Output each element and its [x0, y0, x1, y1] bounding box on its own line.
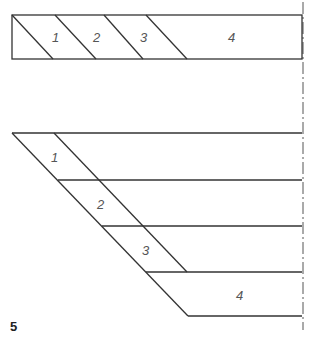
- figure-number: 5: [10, 319, 17, 334]
- bottom-outer-slant: [12, 133, 188, 316]
- bottom-diagram: 1 2 3 4: [12, 133, 302, 316]
- bottom-layer-label-3: 3: [142, 243, 150, 258]
- bottom-layer-label-2: 2: [96, 197, 105, 212]
- top-segment-label-1: 1: [52, 30, 59, 45]
- top-diagonal-4: [146, 15, 187, 59]
- top-segment-label-3: 3: [140, 30, 148, 45]
- bottom-inner-slant: [54, 133, 187, 272]
- top-diagonal-1: [12, 15, 53, 59]
- bottom-layer-label-4: 4: [236, 288, 243, 303]
- top-segment-label-2: 2: [92, 30, 101, 45]
- top-diagram: 1 2 3 4: [12, 15, 302, 59]
- bottom-layer-label-1: 1: [51, 150, 58, 165]
- top-segment-label-4: 4: [228, 30, 235, 45]
- top-diagonal-3: [104, 15, 143, 59]
- top-diagonal-2: [55, 15, 96, 59]
- figure-diagram: 1 2 3 4 1 2 3 4 5: [0, 0, 315, 339]
